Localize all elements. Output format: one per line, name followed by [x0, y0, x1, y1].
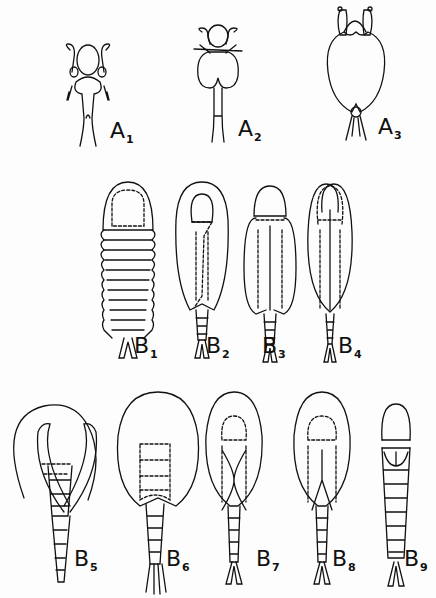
specimen-b7-drawing	[206, 392, 262, 584]
label-subscript: 1	[126, 133, 134, 146]
label-b3: B3	[262, 335, 286, 360]
label-a1: A1	[110, 120, 134, 145]
label-letter: A	[110, 118, 125, 143]
label-letter: A	[238, 116, 253, 141]
label-a2: A2	[238, 118, 262, 143]
label-letter: B	[74, 546, 89, 571]
label-subscript: 4	[354, 348, 362, 361]
specimen-b1-drawing	[101, 182, 155, 358]
label-b9: B9	[404, 548, 428, 573]
label-subscript: 7	[272, 561, 280, 574]
label-subscript: 2	[222, 348, 230, 361]
label-letter: B	[338, 333, 353, 358]
label-b8: B8	[332, 548, 356, 573]
label-letter: B	[166, 546, 181, 571]
label-letter: B	[256, 546, 271, 571]
figure-drawings	[0, 0, 436, 598]
specimen-b2-drawing	[176, 182, 228, 358]
label-subscript: 5	[90, 561, 98, 574]
specimen-a2-drawing	[194, 25, 242, 142]
label-letter: B	[134, 333, 149, 358]
label-letter: B	[262, 333, 277, 358]
label-b2: B2	[206, 335, 230, 360]
figure-canvas: A1 A2 A3 B1 B2 B3 B4 B5 B6 B7 B8 B9	[0, 0, 436, 598]
label-b7: B7	[256, 548, 280, 573]
label-subscript: 3	[394, 129, 402, 142]
label-subscript: 2	[254, 131, 262, 144]
label-letter: B	[404, 546, 419, 571]
label-a3: A3	[378, 116, 402, 141]
label-b6: B6	[166, 548, 190, 573]
label-b4: B4	[338, 335, 362, 360]
label-letter: B	[332, 546, 347, 571]
specimen-a3-drawing	[327, 7, 384, 140]
label-letter: B	[206, 333, 221, 358]
label-subscript: 8	[348, 561, 356, 574]
specimen-a1-drawing	[66, 44, 109, 146]
label-subscript: 3	[278, 348, 286, 361]
label-b1: B1	[134, 335, 158, 360]
label-letter: A	[378, 114, 393, 139]
label-subscript: 9	[420, 561, 428, 574]
label-b5: B5	[74, 548, 98, 573]
label-subscript: 1	[150, 348, 158, 361]
label-subscript: 6	[182, 561, 190, 574]
